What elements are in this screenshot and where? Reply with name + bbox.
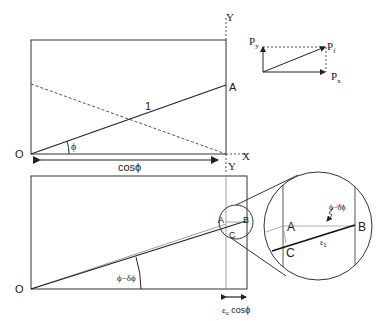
pf-label: Pf	[327, 40, 336, 55]
angle-phi-delta-label: ϕ−δϕ	[117, 273, 136, 283]
deformed-line-ob	[31, 221, 246, 289]
angle-phi-label: ϕ	[71, 141, 76, 152]
top-diagram: O A 1 ϕ cosϕ Y X Y	[15, 11, 250, 173]
x-axis-label: X	[242, 150, 250, 162]
top-box	[31, 40, 226, 154]
deformation-diagram: O A 1 ϕ cosϕ Y X Y Py Pf Px O ϕ−δϕ A B C…	[0, 0, 384, 321]
point-b-small-label: B	[243, 215, 249, 225]
y-axis-bottom-label: Y	[228, 160, 236, 172]
bottom-diagram: O ϕ−δϕ A B C εc cosϕ	[15, 176, 253, 316]
point-a-small-label: A	[218, 215, 224, 225]
angle-arc-phi	[67, 141, 69, 154]
inset-angle-label: ϕ−δϕ	[329, 203, 346, 212]
origin-label-bottom: O	[15, 283, 24, 295]
pf-vector	[263, 47, 325, 72]
inset-point-a-label: A	[287, 220, 295, 234]
origin-label: O	[15, 148, 24, 160]
inset-point-b-label: B	[358, 220, 366, 234]
cos-phi-label: cosϕ	[118, 161, 141, 173]
force-vector-diagram: Py Pf Px	[249, 35, 341, 85]
y-axis-label: Y	[226, 11, 234, 23]
bottom-box	[31, 176, 247, 289]
inset-point-c-label: C	[286, 246, 295, 260]
px-label: Px	[331, 70, 341, 85]
py-label: Py	[249, 35, 259, 50]
strain-label: εc cosϕ	[222, 305, 250, 316]
point-a-label: A	[229, 81, 237, 93]
unit-length-label: 1	[145, 100, 151, 112]
angle-arc-phi-delta	[136, 257, 141, 289]
